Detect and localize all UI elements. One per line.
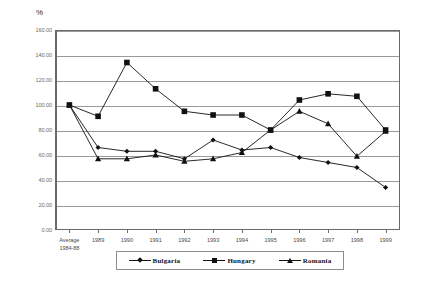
y-tick-label: 40.00 (24, 177, 52, 183)
triangle-marker-icon (279, 256, 301, 265)
gridline (57, 31, 399, 32)
legend-item-2[interactable]: Romania (279, 256, 332, 265)
y-axis-tick-labels: 0.0020.0040.0060.0080.00100.00120.00140.… (22, 30, 52, 230)
y-axis-unit-label: % (36, 8, 43, 17)
y-tick-label: 140.00 (24, 52, 52, 58)
gridline (57, 156, 399, 157)
y-tick-label: 100.00 (24, 102, 52, 108)
y-tick-label: 20.00 (24, 202, 52, 208)
chart-legend: Bulgaria Hungary Romania (116, 251, 344, 270)
legend-label-0: Bulgaria (153, 257, 181, 265)
legend-item-1[interactable]: Hungary (203, 256, 255, 265)
gridline (57, 181, 399, 182)
square-marker-icon (203, 256, 225, 265)
gridline (57, 56, 399, 57)
x-tick-label: 1999 (366, 236, 406, 244)
y-tick-label: 160.00 (24, 27, 52, 33)
gridline (57, 131, 399, 132)
legend-item-0[interactable]: Bulgaria (129, 256, 181, 265)
y-tick-label: 120.00 (24, 77, 52, 83)
gridline (57, 81, 399, 82)
diamond-marker-icon (129, 256, 151, 265)
y-tick-label: 80.00 (24, 127, 52, 133)
legend-label-2: Romania (303, 257, 332, 265)
y-tick-label: 60.00 (24, 152, 52, 158)
gridline (57, 106, 399, 107)
legend-label-1: Hungary (227, 257, 255, 265)
y-tick-label: 0.00 (24, 227, 52, 233)
gridline (57, 206, 399, 207)
plot-area (55, 30, 400, 230)
chart-canvas: % 0.0020.0040.0060.0080.00100.00120.0014… (0, 0, 429, 285)
